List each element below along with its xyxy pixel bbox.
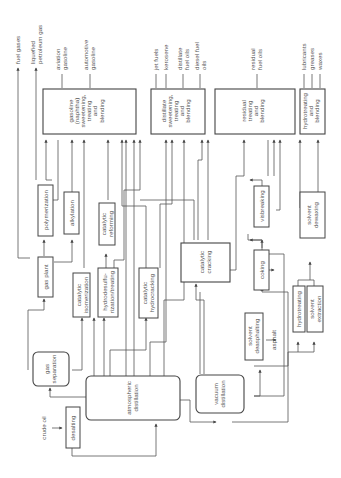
- unit-catalytic-reforming: catalytic reforming: [99, 203, 115, 245]
- svg-text:hydrotreating: hydrotreating: [295, 290, 302, 327]
- unit-solvent-deasphalting: solvent deasphalting: [245, 313, 263, 360]
- product-labels: fuel gases liquefied petroleum gas aviat…: [14, 25, 323, 71]
- svg-text:blending: blending: [184, 99, 191, 123]
- unit-polymerization: polymerization: [38, 185, 53, 236]
- svg-text:polymerization: polymerization: [42, 190, 49, 230]
- svg-text:gas: gas: [43, 364, 50, 374]
- svg-text:solvent: solvent: [246, 326, 253, 346]
- svg-text:dewaxing: dewaxing: [312, 201, 319, 228]
- unit-lube-blending: hydrotreating and blending: [300, 89, 325, 134]
- svg-text:catalytic: catalytic: [198, 251, 205, 273]
- svg-text:rization/treating: rization/treating: [108, 270, 115, 313]
- label-desalting: desalting: [69, 415, 76, 440]
- unit-coking: coking: [254, 250, 269, 290]
- svg-text:automotive: automotive: [82, 39, 89, 70]
- svg-text:lubricants: lubricants: [300, 44, 307, 70]
- svg-text:and: and: [91, 105, 98, 116]
- svg-text:fuel oils: fuel oils: [256, 49, 263, 70]
- svg-text:catalytic: catalytic: [141, 282, 148, 304]
- unit-gas-plant: gas plant: [38, 257, 53, 297]
- unit-alkylation: alkylation: [64, 192, 79, 234]
- svg-text:greases: greases: [308, 48, 315, 70]
- unit-gas-separation: gas separation: [33, 352, 69, 386]
- svg-text:isomerization: isomerization: [82, 276, 89, 313]
- svg-text:distillation: distillation: [132, 384, 139, 412]
- unit-solvent-dewaxing: solvent dewaxing: [300, 192, 325, 238]
- unit-vacuum-distillation: vacuum distillation: [196, 375, 244, 413]
- svg-text:hydrodesulfu-: hydrodesulfu-: [101, 273, 108, 311]
- svg-text:liquefied: liquefied: [29, 40, 36, 64]
- unit-visbreaking: visbreaking: [254, 186, 269, 227]
- svg-text:vacuum: vacuum: [212, 383, 219, 405]
- svg-text:petroleum gas: petroleum gas: [36, 25, 43, 64]
- svg-text:atmospheric: atmospheric: [125, 381, 132, 415]
- unit-solvent-extraction: solvent extraction: [307, 286, 323, 332]
- unit-desalting: desalting: [66, 407, 80, 448]
- svg-text:solvent: solvent: [305, 205, 312, 225]
- svg-text:gasoline: gasoline: [61, 46, 68, 70]
- svg-text:kerosene: kerosene: [162, 44, 169, 70]
- asphalt-label: asphalt: [270, 330, 277, 350]
- svg-text:extraction: extraction: [315, 295, 322, 322]
- svg-text:diesel fuel: diesel fuel: [193, 42, 200, 70]
- svg-text:catalytic: catalytic: [100, 213, 107, 235]
- unit-catalytic-cracking: catalytic cracking: [181, 243, 230, 282]
- svg-text:residual: residual: [249, 48, 256, 70]
- svg-text:coking: coking: [258, 261, 265, 279]
- svg-text:visbreaking: visbreaking: [258, 190, 265, 222]
- svg-text:separation: separation: [50, 354, 57, 383]
- svg-text:hydrocracking: hydrocracking: [148, 273, 155, 312]
- svg-text:deasphalting: deasphalting: [253, 318, 260, 354]
- refinery-flow-diagram: desalting atmospheric distillation vacuu…: [0, 0, 341, 478]
- svg-text:waxes: waxes: [316, 52, 323, 71]
- unit-hydrodesulfurization: hydrodesulfu- rization/treating: [98, 268, 118, 317]
- svg-text:fuel oils: fuel oils: [183, 49, 190, 70]
- unit-distillate-blending: distillate sweetening, treating and blen…: [151, 89, 205, 134]
- unit-residual-blending: residual treating and blending: [215, 89, 295, 134]
- svg-text:blending: blending: [313, 99, 320, 123]
- svg-text:distillation: distillation: [219, 380, 226, 408]
- svg-text:jet fuels: jet fuels: [152, 49, 159, 71]
- svg-text:gasoline: gasoline: [89, 46, 96, 70]
- svg-text:catalytic: catalytic: [75, 284, 82, 306]
- svg-text:reforming: reforming: [107, 210, 114, 237]
- svg-text:blending: blending: [98, 99, 105, 123]
- svg-text:fuel gases: fuel gases: [14, 36, 21, 64]
- unit-gasoline-blending: gasoline (naphtha) sweetening, treating …: [43, 89, 136, 134]
- svg-text:alkylation: alkylation: [68, 200, 75, 226]
- crude-oil-label: crude oil: [40, 416, 47, 439]
- svg-text:aviation: aviation: [54, 48, 61, 70]
- unit-catalytic-hydrocracking: catalytic hydrocracking: [139, 268, 158, 318]
- svg-text:blending: blending: [258, 99, 265, 123]
- unit-hydrotreating: hydrotreating: [293, 286, 305, 332]
- svg-text:solvent: solvent: [308, 299, 315, 319]
- svg-text:gas plant: gas plant: [42, 264, 49, 289]
- svg-text:cracking: cracking: [205, 250, 212, 274]
- unit-catalytic-isomerization: catalytic isomerization: [73, 273, 90, 317]
- svg-text:oils: oils: [200, 61, 207, 70]
- unit-atmospheric-distillation: atmospheric distillation: [86, 376, 180, 420]
- svg-text:distillate: distillate: [176, 47, 183, 70]
